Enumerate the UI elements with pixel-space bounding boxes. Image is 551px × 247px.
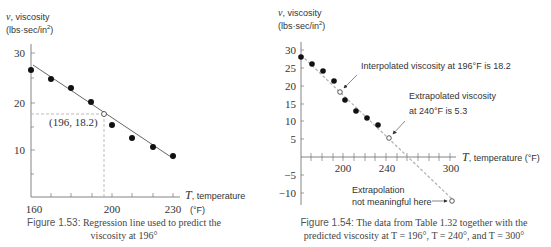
- y-axis-label-left: v, viscosity: [6, 11, 50, 22]
- x-tick-labels-left: 160 200 230: [26, 203, 182, 215]
- annotation-interpolated: Interpolated viscosity at 196°F is 18.2: [361, 61, 511, 71]
- predicted-point-196: [102, 112, 107, 117]
- caption-right-line2: predicted viscosity at T = 196°, T = 240…: [304, 230, 525, 241]
- svg-text:10: 10: [285, 115, 297, 127]
- chart-left: v, viscosity (lbs·sec/in2) 30 20 10: [6, 11, 245, 241]
- svg-text:160: 160: [26, 203, 43, 215]
- y-tick-labels-left: 30 20 10: [14, 47, 26, 156]
- chart-right: v, viscosity (lbs·sec/in2) 30 25 20 15 1…: [278, 7, 540, 241]
- svg-text:20: 20: [14, 97, 26, 109]
- svg-text:20: 20: [285, 80, 297, 92]
- x-tick-labels-right: 200 240 300: [335, 162, 460, 174]
- svg-text:240: 240: [379, 162, 396, 174]
- x-axis-label-left: T, temperature: [185, 188, 245, 202]
- predicted-point-240: [387, 136, 392, 141]
- annotation-not-meaningful-line1: Extrapolation: [352, 185, 405, 195]
- svg-text:30: 30: [14, 47, 26, 59]
- svg-text:230: 230: [165, 203, 182, 215]
- svg-text:5: 5: [291, 133, 297, 145]
- svg-text:−5: −5: [284, 169, 296, 181]
- svg-text:200: 200: [335, 162, 352, 174]
- svg-text:200: 200: [104, 203, 121, 215]
- svg-text:25: 25: [285, 62, 297, 74]
- predicted-point-196: [338, 90, 343, 95]
- y-axis-label-right: v, viscosity: [278, 7, 322, 18]
- y-ticks-right: [301, 50, 304, 193]
- svg-text:−10: −10: [279, 187, 297, 199]
- figure-pair: v, viscosity (lbs·sec/in2) 30 20 10: [0, 0, 551, 247]
- caption-right-line1: Figure 1.54: The data from Table 1.32 to…: [301, 217, 529, 228]
- svg-text:30: 30: [285, 44, 297, 56]
- arrow-extrapolated: [393, 121, 405, 134]
- y-tick-labels-right: 30 25 20 15 10 5 −5 −10: [279, 44, 297, 199]
- annotation-extrapolated-line1: Extrapolated viscosity: [409, 91, 497, 101]
- point-label-196: (196, 18.2): [49, 116, 98, 129]
- caption-left-line1: Figure 1.53: Regression line used to pre…: [27, 217, 221, 228]
- svg-text:15: 15: [285, 98, 297, 110]
- y-axis-unit-right: (lbs·sec/in2): [278, 20, 325, 31]
- annotation-extrapolated-line2: at 240°F is 5.3: [409, 106, 467, 116]
- svg-text:10: 10: [14, 144, 26, 156]
- caption-left-line2: viscosity at 196°: [91, 230, 158, 241]
- x-ticks-left: [51, 193, 173, 197]
- annotation-not-meaningful-line2: not meaningful here: [352, 197, 432, 207]
- arrow-interpolated: [344, 75, 357, 88]
- x-axis-label-right: T, temperature (°F): [462, 150, 540, 164]
- svg-text:300: 300: [443, 162, 460, 174]
- y-axis-unit-left: (lbs·sec/in2): [6, 24, 53, 35]
- x-axis-unit-left: (°F): [190, 205, 205, 215]
- predicted-point-300: [450, 199, 455, 204]
